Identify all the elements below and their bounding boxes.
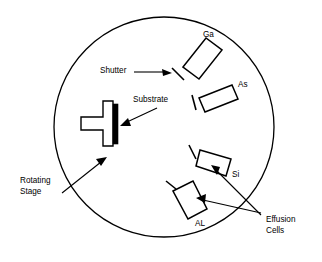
si-shutter-blade bbox=[189, 145, 196, 159]
shutter-label: Shutter bbox=[100, 66, 127, 75]
shutter-callout bbox=[134, 69, 172, 76]
effusion-cell-ga bbox=[172, 38, 222, 80]
effusion-cells-label-line2: Cells bbox=[266, 226, 284, 235]
substrate-arrowhead-icon bbox=[120, 118, 131, 126]
effusion-cell-as bbox=[192, 85, 238, 112]
rotating-stage-label-line1: Rotating bbox=[20, 176, 51, 185]
rotating-stage-leader-line bbox=[62, 162, 101, 193]
ga-shutter-blade bbox=[172, 68, 184, 80]
mbe-chamber-diagram: Ga As Si AL Shutter bbox=[0, 0, 322, 262]
rotating-stage-assembly bbox=[81, 101, 118, 146]
rotating-stage-callout bbox=[62, 157, 107, 193]
substrate-wafer bbox=[113, 104, 118, 144]
si-cell-body bbox=[196, 150, 231, 176]
effusion-cell-si bbox=[189, 145, 231, 176]
substrate-label: Substrate bbox=[133, 95, 168, 104]
rotating-stage-body bbox=[81, 101, 113, 146]
as-shutter-blade bbox=[192, 95, 196, 110]
effusion-cells-label-line1: Effusion bbox=[266, 215, 296, 224]
ga-cell-body bbox=[183, 38, 222, 79]
si-cell-label: Si bbox=[232, 170, 239, 179]
al-shutter-blade bbox=[166, 181, 176, 189]
diagram-canvas: Ga As Si AL Shutter bbox=[0, 0, 322, 262]
ga-cell-label: Ga bbox=[203, 30, 214, 39]
as-cell-body bbox=[199, 85, 238, 112]
substrate-callout bbox=[120, 108, 157, 126]
as-cell-label: As bbox=[238, 80, 248, 89]
rotating-stage-label-line2: Stage bbox=[20, 187, 42, 196]
al-cell-label: AL bbox=[195, 219, 205, 228]
substrate-leader-line bbox=[127, 108, 157, 122]
shutter-arrowhead-icon bbox=[162, 69, 172, 76]
